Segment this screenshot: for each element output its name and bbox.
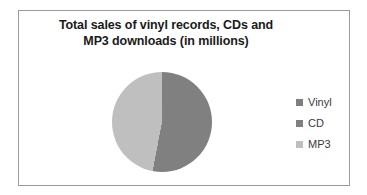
chart-legend: Vinyl CD MP3 (296, 92, 350, 155)
legend-item-mp3[interactable]: MP3 (296, 134, 350, 155)
legend-label-vinyl: Vinyl (308, 97, 332, 108)
legend-item-vinyl[interactable]: Vinyl (296, 92, 350, 113)
chart-title-line-2: MP3 downloads (in millions) (40, 33, 292, 49)
legend-label-mp3: MP3 (308, 139, 331, 150)
legend-swatch-cd (296, 120, 303, 127)
legend-item-cd[interactable]: CD (296, 113, 350, 134)
chart-title: Total sales of vinyl records, CDs and MP… (40, 17, 292, 49)
chart-title-line-1: Total sales of vinyl records, CDs and (40, 17, 292, 33)
pie-chart (112, 72, 212, 172)
pie-plot-area (112, 72, 212, 172)
legend-swatch-vinyl (296, 99, 303, 106)
legend-label-cd: CD (308, 118, 324, 129)
chart-figure: Total sales of vinyl records, CDs and MP… (0, 0, 367, 195)
legend-swatch-mp3 (296, 141, 303, 148)
